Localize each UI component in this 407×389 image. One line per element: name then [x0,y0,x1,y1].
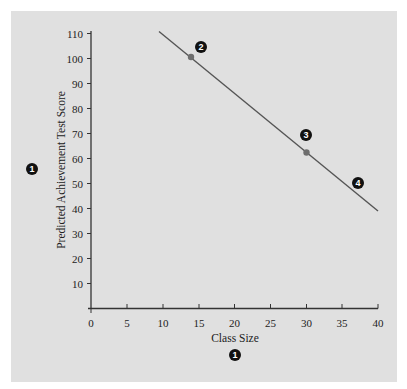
y-tick-label: 60 [72,153,84,165]
y-tick-label: 20 [72,253,84,265]
badge-1-x: 1 [229,349,241,361]
x-tick-labels: 0 5 10 15 20 25 30 35 40 [88,317,384,329]
y-tick-label: 50 [72,178,84,190]
y-tick-label: 40 [72,203,84,215]
data-point-2 [188,54,194,60]
y-tick-label: 100 [67,53,84,65]
x-axis-title: Class Size [211,332,259,344]
y-tick-label: 10 [72,278,84,290]
badge-1-y: 1 [26,163,38,175]
y-axis-title: Predicted Achievement Test Score [55,91,67,249]
svg-text:4: 4 [355,178,360,188]
y-tick-label: 90 [72,78,84,90]
x-tick-label: 5 [124,317,130,329]
badge-4: 4 [352,177,364,189]
x-tick-label: 35 [337,317,349,329]
y-tick-label: 110 [67,28,84,40]
x-tick-label: 30 [301,317,313,329]
x-tick-label: 0 [88,317,94,329]
y-tick-label: 70 [72,128,84,140]
y-tick-label: 30 [72,228,84,240]
badge-3: 3 [300,129,312,141]
y-tick-label: 80 [72,103,84,115]
x-tick-label: 40 [373,317,385,329]
x-tick-label: 20 [229,317,241,329]
svg-text:2: 2 [198,42,203,52]
x-tick-label: 25 [265,317,277,329]
y-tick-labels: 10 20 30 40 50 60 70 80 90 100 110 [67,28,84,290]
svg-text:3: 3 [303,130,308,140]
chart-svg: 10 20 30 40 50 60 70 80 90 100 110 0 5 1… [0,0,407,389]
svg-text:1: 1 [232,350,237,360]
x-tick-label: 10 [158,317,170,329]
svg-text:1: 1 [29,164,34,174]
x-tick-label: 15 [194,317,206,329]
badge-2: 2 [195,41,207,53]
data-point-3 [303,149,309,155]
